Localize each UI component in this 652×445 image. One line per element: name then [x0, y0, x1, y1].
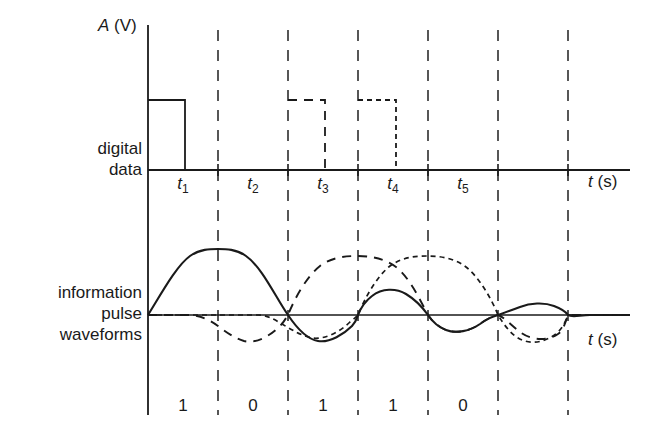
digital-data-row-label: digital data — [22, 138, 142, 180]
bit-label-5: 0 — [433, 396, 493, 416]
information-pulse-3 — [148, 256, 630, 342]
digital-data-label-line2: data — [22, 159, 142, 180]
time-unit-top: (s) — [597, 172, 617, 191]
digital-pulse-1 — [148, 100, 185, 170]
bit-label-1: 1 — [153, 396, 213, 416]
amplitude-symbol: A — [98, 16, 109, 35]
digital-pulse-3 — [288, 100, 325, 170]
time-symbol-bottom: t — [588, 330, 593, 349]
time-tick-label-2: t2 — [223, 174, 283, 194]
information-pulse-row-label: information pulse waveforms — [2, 282, 142, 345]
bit-label-4: 1 — [363, 396, 423, 416]
information-pulse-2 — [148, 256, 630, 342]
amplitude-unit: (V) — [114, 16, 137, 35]
waveform-time-axis-label: t (s) — [588, 330, 617, 350]
waveform-label-line2: pulse — [2, 303, 142, 324]
time-tick-label-1: t1 — [153, 174, 213, 194]
bit-label-3: 1 — [293, 396, 353, 416]
time-tick-label-5: t5 — [433, 174, 493, 194]
waveform-label-line3: waveforms — [2, 324, 142, 345]
time-tick-label-3: t3 — [293, 174, 353, 194]
bit-label-2: 0 — [223, 396, 283, 416]
time-unit-bottom: (s) — [597, 330, 617, 349]
time-symbol-top: t — [588, 172, 593, 191]
waveform-label-line1: information — [2, 282, 142, 303]
digital-time-axis-label: t (s) — [588, 172, 617, 192]
digital-pulse-4 — [358, 100, 396, 170]
digital-data-label-line1: digital — [22, 138, 142, 159]
time-tick-label-4: t4 — [363, 174, 423, 194]
amplitude-axis-label: A (V) — [98, 16, 137, 36]
figure-canvas — [0, 0, 652, 445]
pulse-waveform-figure: A (V) digital data information pulse wav… — [0, 0, 652, 445]
gridlines — [218, 30, 568, 415]
